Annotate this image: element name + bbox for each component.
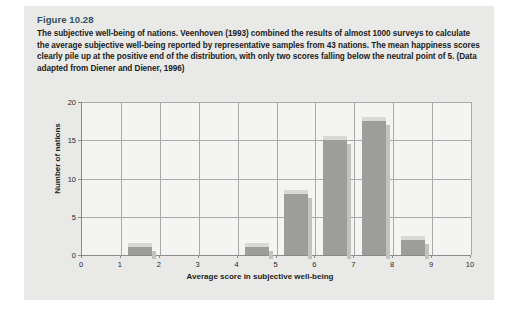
figure-caption-text: The subjective well-being of nations. Ve… [37, 28, 483, 74]
x-tick-mark [120, 255, 121, 258]
bar-top-face [401, 236, 425, 240]
figure-number: Figure 10.28 [37, 14, 483, 25]
x-tick-label: 9 [429, 260, 433, 269]
y-tick-label: 5 [72, 212, 76, 221]
gridline-vertical [199, 102, 200, 255]
x-tick-label: 1 [118, 260, 122, 269]
y-tick-label: 10 [68, 174, 76, 183]
x-tick-mark [237, 255, 238, 258]
bar-side-face [347, 144, 351, 259]
bar [128, 247, 152, 255]
x-tick-label: 3 [196, 260, 200, 269]
figure-panel: Figure 10.28 The subjective well-being o… [24, 6, 494, 300]
gridline-vertical [393, 102, 394, 255]
gridline-vertical [160, 102, 161, 255]
x-tick-mark [431, 255, 432, 258]
x-tick-label: 10 [466, 260, 474, 269]
bar [245, 247, 269, 255]
x-tick-label: 5 [273, 260, 277, 269]
chart-area: Number of nations 05101520 012345678910 … [37, 94, 483, 290]
bar [401, 240, 425, 255]
plot-wrapper: 05101520 012345678910 [81, 102, 470, 255]
bar-top-face [128, 243, 152, 247]
bar-side-face [152, 251, 156, 259]
y-tick-label: 15 [68, 136, 76, 145]
gridline-vertical [277, 102, 278, 255]
x-tick-mark [81, 255, 82, 258]
bar-top-face [245, 243, 269, 247]
bar-side-face [308, 198, 312, 259]
x-tick-mark [276, 255, 277, 258]
x-tick-mark [392, 255, 393, 258]
gridline-vertical [354, 102, 355, 255]
y-tick-mark [78, 102, 81, 103]
x-tick-label: 7 [351, 260, 355, 269]
gridline-vertical [315, 102, 316, 255]
x-tick-mark [198, 255, 199, 258]
bar [323, 140, 347, 255]
x-tick-label: 6 [312, 260, 316, 269]
y-tick-mark [78, 179, 81, 180]
y-tick-label: 0 [72, 251, 76, 260]
y-tick-mark [78, 140, 81, 141]
figure-caption-block: Figure 10.28 The subjective well-being o… [37, 14, 483, 74]
x-tick-mark [353, 255, 354, 258]
gridline-vertical [432, 102, 433, 255]
bar-side-face [386, 125, 390, 259]
bar [284, 194, 308, 255]
x-tick-label: 0 [79, 260, 83, 269]
x-tick-mark [159, 255, 160, 258]
x-axis-title: Average score in subjective well-being [37, 272, 483, 281]
y-tick-mark [78, 217, 81, 218]
y-axis-title: Number of nations [53, 114, 62, 204]
gridline-vertical [121, 102, 122, 255]
x-tick-label: 2 [157, 260, 161, 269]
x-tick-label: 4 [235, 260, 239, 269]
plot-area [81, 102, 471, 256]
bar-top-face [284, 190, 308, 194]
bar [362, 121, 386, 255]
bar-top-face [323, 136, 347, 140]
x-tick-mark [470, 255, 471, 258]
bar-side-face [425, 244, 429, 259]
y-tick-label: 20 [68, 98, 76, 107]
gridline-vertical [238, 102, 239, 255]
gridline-vertical [471, 102, 472, 255]
x-tick-mark [314, 255, 315, 258]
bar-top-face [362, 117, 386, 121]
bar-side-face [269, 251, 273, 259]
x-tick-label: 8 [390, 260, 394, 269]
